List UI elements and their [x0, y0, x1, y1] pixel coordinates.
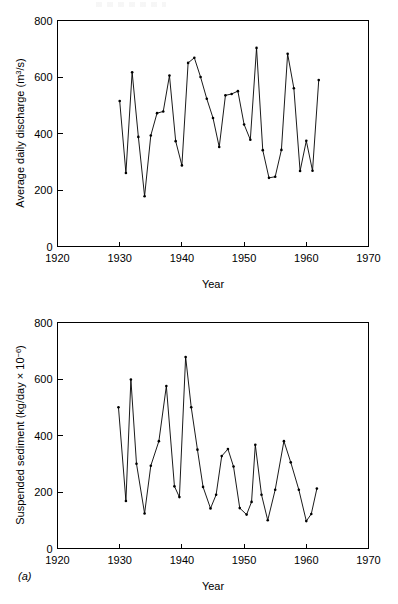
discharge-series [120, 48, 319, 196]
data-point [125, 500, 128, 503]
data-point [280, 149, 283, 152]
data-point [174, 140, 177, 143]
data-point [227, 448, 230, 451]
data-point [283, 440, 286, 443]
data-point [158, 440, 161, 443]
data-point [260, 494, 263, 497]
data-line [118, 357, 316, 521]
data-point [190, 406, 193, 409]
data-point [205, 97, 208, 100]
data-point [230, 93, 233, 96]
data-point [212, 117, 215, 120]
x-tick-label: 1960 [294, 252, 318, 264]
y-tick-label: 0 [46, 241, 52, 253]
data-point [305, 140, 308, 143]
figure-container: 1920193019401950196019700200400600800 Ye… [0, 0, 398, 604]
data-point [156, 112, 159, 115]
sediment-y-axis-title: Suspended sediment (kg/day × 10−6) [14, 345, 27, 525]
x-tick-label: 1920 [45, 554, 69, 566]
x-tick-label: 1940 [170, 554, 194, 566]
chart-panel-discharge: 1920193019401950196019700200400600800 Ye… [0, 0, 398, 300]
sediment-markers [117, 356, 318, 523]
data-point [165, 385, 168, 388]
data-point [117, 406, 120, 409]
data-point [268, 177, 271, 180]
sediment-series [118, 357, 316, 521]
data-point [218, 146, 221, 149]
data-point [261, 149, 264, 152]
data-point [168, 74, 171, 77]
x-tick-label: 1930 [107, 554, 131, 566]
data-point [202, 486, 205, 489]
data-point [293, 87, 296, 90]
data-point [238, 507, 241, 510]
data-point [243, 123, 246, 126]
y-tick-label: 800 [34, 15, 52, 27]
data-point [118, 100, 121, 103]
data-point [237, 90, 240, 93]
data-point [209, 507, 212, 510]
data-point [184, 356, 187, 359]
data-point [255, 47, 258, 50]
data-point [311, 169, 314, 172]
data-point [150, 134, 153, 137]
discharge-x-axis-title: Year [202, 278, 225, 290]
sediment-tick-labels: 1920193019401950196019700200400600800 [34, 317, 381, 566]
data-point [162, 110, 165, 113]
discharge-plot: 1920193019401950196019700200400600800 Ye… [0, 0, 398, 300]
data-point [286, 53, 289, 56]
y-tick-label: 400 [34, 430, 52, 442]
data-point [150, 464, 153, 467]
data-line [120, 48, 319, 196]
discharge-markers [118, 47, 320, 198]
data-point [130, 378, 133, 381]
chart-panel-sediment: 1920193019401950196019700200400600800 Ye… [0, 300, 398, 604]
data-point [249, 138, 252, 141]
panel-letter-a: (a) [18, 570, 31, 582]
data-point [178, 496, 181, 499]
y-tick-label: 400 [34, 128, 52, 140]
sediment-ticks [58, 379, 307, 549]
y-tick-label: 200 [34, 184, 52, 196]
data-point [310, 513, 313, 516]
data-point [317, 79, 320, 82]
x-tick-label: 1970 [356, 554, 380, 566]
discharge-axes [58, 21, 369, 247]
data-point [299, 170, 302, 173]
data-point [193, 56, 196, 59]
data-point [143, 512, 146, 515]
data-point [254, 444, 257, 447]
x-tick-label: 1920 [45, 252, 69, 264]
data-point [274, 175, 277, 178]
data-point [125, 172, 128, 175]
y-tick-label: 600 [34, 71, 52, 83]
x-tick-label: 1950 [232, 252, 256, 264]
data-point [224, 94, 227, 97]
sediment-axes [58, 323, 369, 549]
x-tick-label: 1960 [294, 554, 318, 566]
data-point [298, 488, 301, 491]
sediment-x-axis-title: Year [202, 580, 225, 592]
discharge-tick-labels: 1920193019401950196019700200400600800 [34, 15, 381, 264]
data-point [187, 62, 190, 65]
y-tick-label: 600 [34, 373, 52, 385]
data-point [131, 71, 134, 74]
data-point [181, 164, 184, 167]
data-point [143, 195, 146, 198]
data-point [196, 448, 199, 451]
x-tick-label: 1970 [356, 252, 380, 264]
data-point [135, 462, 138, 465]
x-tick-label: 1950 [232, 554, 256, 566]
y-tick-label: 800 [34, 317, 52, 329]
data-point [289, 461, 292, 464]
data-point [215, 494, 218, 497]
sediment-plot: 1920193019401950196019700200400600800 Ye… [0, 300, 398, 604]
data-point [245, 513, 248, 516]
data-point [137, 136, 140, 139]
data-point [274, 488, 277, 491]
x-tick-label: 1940 [170, 252, 194, 264]
data-point [199, 76, 202, 79]
data-point [232, 465, 235, 468]
discharge-y-axis-title: Average daily discharge (m3/s) [14, 58, 27, 208]
data-point [220, 455, 223, 458]
